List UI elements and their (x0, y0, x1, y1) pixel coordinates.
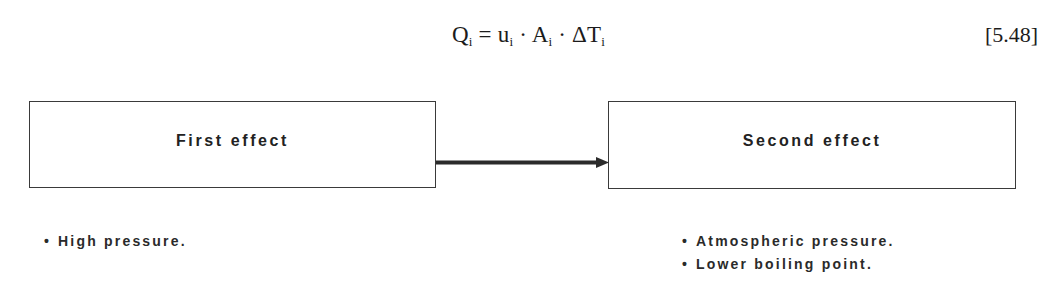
eq-a: A (532, 22, 549, 47)
eq-u: u (498, 22, 510, 47)
eq-dot: · (513, 22, 532, 47)
heat-transfer-equation: Qi = ui · Ai · ΔTi (452, 22, 605, 50)
first-effect-box: First effect (29, 101, 436, 188)
first-effect-notes: •High pressure. (44, 230, 187, 253)
note-text: Atmospheric pressure. (696, 233, 895, 249)
bullet-icon: • (682, 230, 696, 253)
eq-lhs: Q (452, 22, 469, 47)
note-item: •Atmospheric pressure. (682, 230, 895, 253)
eq-delta-t-subscript: i (601, 34, 605, 49)
second-effect-box: Second effect (608, 101, 1016, 189)
eq-equals: = (473, 22, 498, 47)
eq-dot: · (552, 22, 572, 47)
equation-number: [5.48] (985, 22, 1038, 48)
bullet-icon: • (682, 253, 696, 276)
note-item: •High pressure. (44, 230, 187, 253)
first-effect-label: First effect (176, 132, 289, 150)
note-text: Lower boiling point. (696, 256, 873, 272)
eq-delta-t: ΔT (572, 22, 601, 47)
bullet-icon: • (44, 230, 58, 253)
note-text: High pressure. (58, 233, 187, 249)
second-effect-label: Second effect (743, 132, 882, 150)
note-item: •Lower boiling point. (682, 253, 895, 276)
second-effect-notes: •Atmospheric pressure. •Lower boiling po… (682, 230, 895, 276)
flow-arrow-icon (436, 157, 610, 169)
